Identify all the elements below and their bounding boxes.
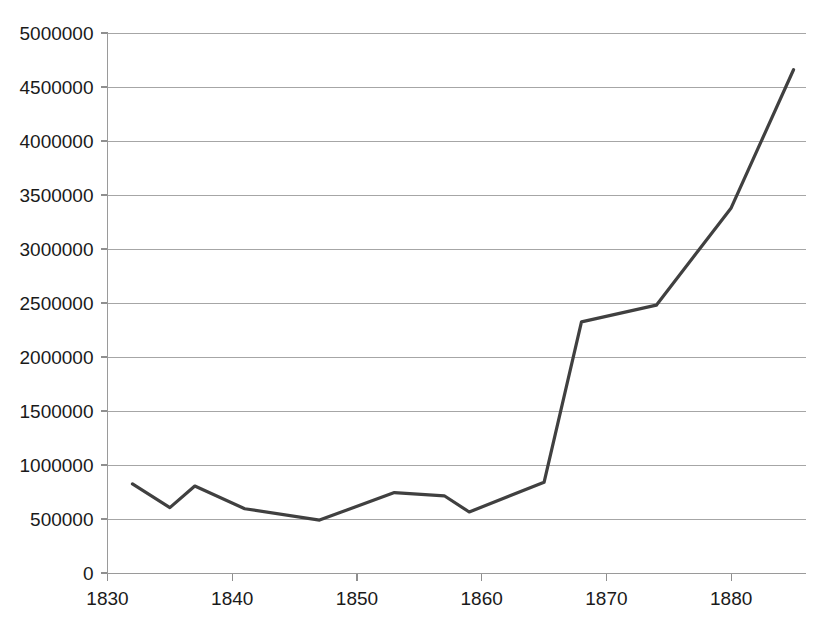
line-chart: 0500000100000015000002000000250000030000… <box>0 0 815 627</box>
y-tick-label: 4000000 <box>20 131 94 152</box>
y-tick-label: 1500000 <box>20 401 94 422</box>
y-axis-tickmarks <box>101 33 108 573</box>
y-tick-label: 2500000 <box>20 293 94 314</box>
y-tick-label: 2000000 <box>20 347 94 368</box>
y-tick-label: 3000000 <box>20 239 94 260</box>
x-tick-label: 1830 <box>86 588 128 609</box>
y-tick-label: 3500000 <box>20 185 94 206</box>
x-tick-label: 1870 <box>585 588 627 609</box>
x-tick-label: 1840 <box>211 588 253 609</box>
x-axis-labels: 183018401850186018701880 <box>86 588 752 609</box>
y-tick-label: 0 <box>83 563 94 584</box>
gridlines <box>108 33 807 573</box>
x-tick-label: 1880 <box>710 588 752 609</box>
y-tick-label: 4500000 <box>20 77 94 98</box>
data-series-line <box>132 70 793 520</box>
x-tick-label: 1860 <box>461 588 503 609</box>
chart-canvas: 0500000100000015000002000000250000030000… <box>0 0 815 627</box>
x-axis-tickmarks <box>108 573 732 581</box>
y-tick-label: 5000000 <box>20 23 94 44</box>
y-tick-label: 1000000 <box>20 455 94 476</box>
y-tick-label: 500000 <box>30 509 93 530</box>
x-tick-label: 1850 <box>336 588 378 609</box>
y-axis-labels: 0500000100000015000002000000250000030000… <box>20 23 94 584</box>
